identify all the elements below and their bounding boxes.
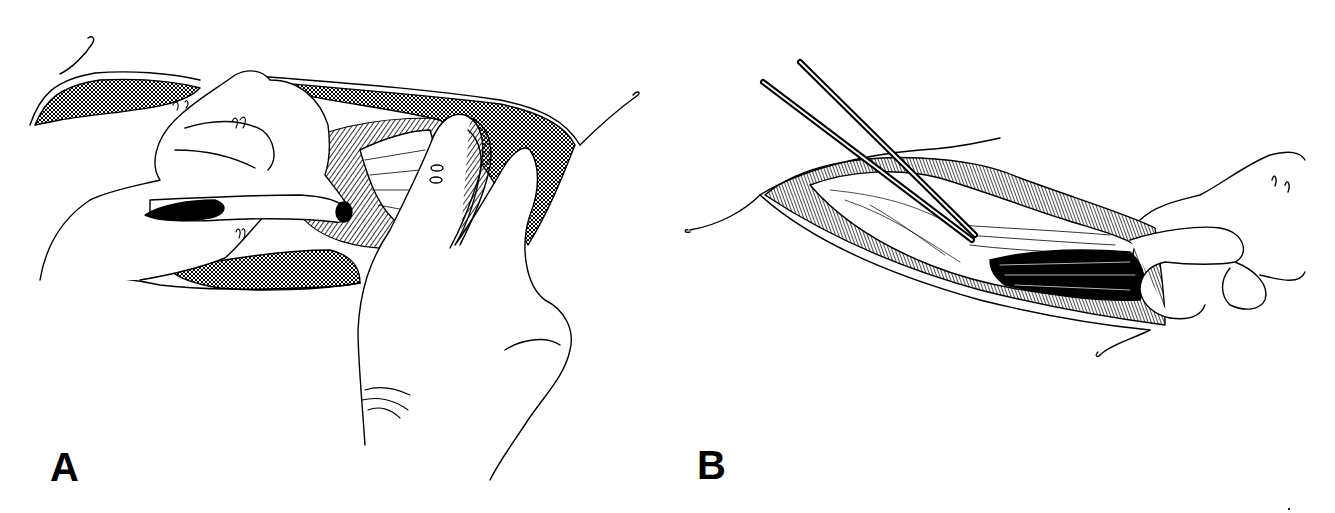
stray-mark [1288, 508, 1290, 510]
panel-label-a: A [50, 447, 79, 487]
figure-panel-a: A [0, 0, 660, 513]
surgical-illustration-a [0, 0, 660, 513]
panel-label-b: B [697, 445, 726, 485]
figure-panel-b: B [660, 0, 1335, 513]
surgical-illustration-b [660, 0, 1335, 513]
